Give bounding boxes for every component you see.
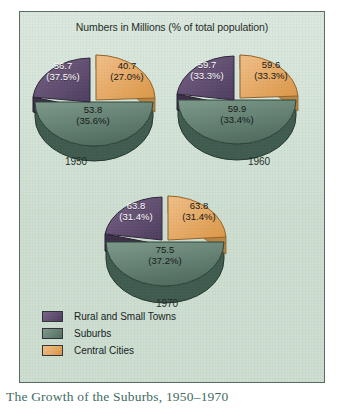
legend-item-rural: Rural and Small Towns (42, 308, 176, 325)
pie-chart-1950: 56.7 (37.5%) 40.7 (27.0%) 53.8 (35.6%) 1… (26, 38, 162, 166)
legend-label-suburbs: Suburbs (74, 328, 111, 339)
figure-the-growth-of-the-suburbs: Numbers in Millions (% of total populati… (0, 0, 343, 410)
legend-item-suburbs: Suburbs (42, 325, 176, 342)
pie-1970-graphic (99, 180, 235, 308)
pie-1960-year: 1960 (210, 156, 308, 167)
chart-legend: Rural and Small Towns Suburbs Central Ci… (42, 308, 176, 359)
legend-label-central-cities: Central Cities (74, 345, 134, 356)
chart-title: Numbers in Millions (% of total populati… (20, 21, 324, 33)
legend-swatch-rural-icon (42, 311, 63, 322)
legend-swatch-suburbs-icon (42, 328, 63, 339)
pie-1950-year: 1950 (19, 156, 162, 167)
pie-chart-1960: 59.7 (33.3%) 59.6 (33.3%) 59.9 (33.4%) 1… (172, 38, 308, 166)
pie-chart-1970: 63.8 (31.4%) 63.8 (31.4%) 75.5 (37.2%) 1… (99, 180, 235, 308)
chart-panel: Numbers in Millions (% of total populati… (19, 11, 325, 383)
pie-1960-graphic (172, 38, 308, 166)
figure-caption: The Growth of the Suburbs, 1950–1970 (6, 389, 228, 405)
pie-1950-graphic (26, 38, 162, 166)
legend-item-central-cities: Central Cities (42, 342, 176, 359)
legend-label-rural: Rural and Small Towns (74, 311, 176, 322)
legend-swatch-central-cities-icon (42, 345, 63, 356)
